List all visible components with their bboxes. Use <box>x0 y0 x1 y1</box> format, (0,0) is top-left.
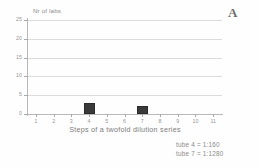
x-axis-tick <box>160 114 161 117</box>
gridline <box>27 39 222 40</box>
y-axis-tick <box>24 114 28 115</box>
y-axis-tick-label: 15 <box>16 55 22 60</box>
gridline <box>27 76 222 77</box>
y-axis-title: Nr of labs <box>33 8 61 14</box>
bar <box>84 103 95 114</box>
gridline <box>27 58 222 59</box>
annotation-line: tube 7 = 1:1280 <box>176 150 224 159</box>
x-axis-tick <box>54 114 55 117</box>
y-axis-tick <box>24 95 28 96</box>
x-axis-tick <box>36 114 37 117</box>
x-axis-tick <box>213 114 214 117</box>
figure-panel: A Nr of labs 0510152025 1234567891011 St… <box>0 0 259 168</box>
x-axis-tick <box>71 114 72 117</box>
y-axis-tick <box>24 20 28 21</box>
x-axis-tick <box>125 114 126 117</box>
x-axis-tick-label: 2 <box>52 119 55 124</box>
x-axis-title: Steps of a twofold dilution series <box>27 126 223 133</box>
x-axis-tick-label: 1 <box>34 119 37 124</box>
gridline <box>27 20 222 21</box>
y-axis-tick-label: 10 <box>16 74 22 79</box>
x-axis-tick-label: 9 <box>176 119 179 124</box>
annotation-line: tube 4 = 1:160 <box>176 141 224 150</box>
y-axis-tick-label: 0 <box>19 111 22 116</box>
y-axis-tick <box>24 39 28 40</box>
x-axis-tick-label: 8 <box>159 119 162 124</box>
x-axis-tick <box>107 114 108 117</box>
panel-label: A <box>228 6 237 19</box>
x-axis-tick-label: 6 <box>123 119 126 124</box>
x-axis-tick <box>178 114 179 117</box>
plot-area: 0510152025 1234567891011 <box>27 20 222 114</box>
x-axis-tick-label: 7 <box>141 119 144 124</box>
y-axis-tick <box>24 76 28 77</box>
x-axis-tick <box>89 114 90 117</box>
y-axis-tick-label: 20 <box>16 36 22 41</box>
gridline <box>27 95 222 96</box>
x-axis-tick-label: 3 <box>70 119 73 124</box>
y-axis-tick-label: 5 <box>19 93 22 98</box>
x-axis-tick <box>195 114 196 117</box>
x-axis-tick-label: 5 <box>105 119 108 124</box>
y-axis-tick-label: 25 <box>16 17 22 22</box>
x-axis-tick-label: 4 <box>88 119 91 124</box>
x-axis-tick <box>142 114 143 117</box>
x-axis-tick-label: 11 <box>210 119 215 124</box>
annotation-block: tube 4 = 1:160tube 7 = 1:1280 <box>176 141 224 158</box>
x-axis-tick-label: 10 <box>193 119 199 124</box>
y-axis-tick <box>24 58 28 59</box>
bar <box>137 106 148 114</box>
